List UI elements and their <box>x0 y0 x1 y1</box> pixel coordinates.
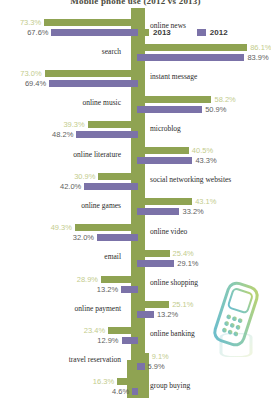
bar-2012[interactable]: 50.9% <box>137 105 226 113</box>
bar-value-label: 67.6% <box>27 29 48 36</box>
bar-value-label: 32.0% <box>73 234 94 241</box>
bar-2012[interactable]: 12.9% <box>97 336 138 344</box>
bar-2012[interactable]: 42.0% <box>60 182 138 190</box>
bar-2012[interactable]: 67.6% <box>27 28 138 36</box>
bar-value-label: 30.9% <box>74 173 95 180</box>
bar-group: 40.5%43.3% <box>137 145 217 167</box>
bar-2012[interactable]: 48.2% <box>52 131 138 139</box>
bar-rect <box>97 234 138 241</box>
bar-2012[interactable]: 13.2% <box>137 311 178 319</box>
bar-value-label: 40.5% <box>192 147 213 154</box>
bar-group: 23.4%12.9% <box>84 324 138 346</box>
bar-2013[interactable]: 16.3% <box>93 378 138 386</box>
bar-2013[interactable]: 30.9% <box>74 172 138 180</box>
bar-rect <box>132 388 138 395</box>
bar-2012[interactable]: 29.1% <box>137 259 199 267</box>
bar-value-label: 25.4% <box>173 250 194 257</box>
bar-2013[interactable]: 23.4% <box>84 326 138 334</box>
bar-value-label: 33.2% <box>182 208 203 215</box>
bar-2012[interactable]: 5.9% <box>137 362 165 370</box>
bar-value-label: 48.2% <box>52 131 73 138</box>
category-label: online banking <box>150 329 195 338</box>
bar-2012[interactable]: 32.0% <box>73 234 138 242</box>
bar-rect <box>122 337 139 344</box>
bar-2013[interactable]: 40.5% <box>137 147 213 155</box>
legend-item-2012[interactable]: 2012 <box>197 28 228 37</box>
chart-legend: 2013 2012 <box>140 28 228 37</box>
bar-value-label: 5.9% <box>148 363 165 370</box>
bar-value-label: 23.4% <box>84 327 105 334</box>
bar-2013[interactable]: 86.1% <box>137 44 271 52</box>
bar-group: 49.3%32.0% <box>51 222 138 244</box>
bar-group: 73.3%67.6% <box>20 16 138 38</box>
bar-group: 58.2%50.9% <box>137 93 236 115</box>
bar-value-label: 43.1% <box>195 198 216 205</box>
bar-value-label: 25.1% <box>172 301 193 308</box>
bar-group: 73.0%69.4% <box>20 67 138 89</box>
bar-group: 30.9%42.0% <box>60 170 138 192</box>
bar-2013[interactable]: 28.9% <box>77 275 138 283</box>
bar-2013[interactable]: 25.4% <box>137 249 194 257</box>
bar-2012[interactable]: 13.2% <box>97 285 138 293</box>
bar-rect <box>76 131 138 138</box>
bar-rect <box>137 260 174 267</box>
bar-2012[interactable]: 33.2% <box>137 208 204 216</box>
bar-2013[interactable]: 58.2% <box>137 95 236 103</box>
bar-value-label: 16.3% <box>93 378 114 385</box>
bar-rect <box>137 311 154 318</box>
bar-rect <box>98 173 138 180</box>
category-label: online shopping <box>150 278 198 287</box>
bar-rect <box>137 353 149 360</box>
bar-value-label: 83.9% <box>247 54 268 61</box>
bar-group: 25.4%29.1% <box>137 247 199 269</box>
bar-value-label: 69.4% <box>25 80 46 87</box>
bar-2012[interactable]: 4.6% <box>112 388 138 396</box>
category-label: online payment <box>75 304 121 313</box>
bar-2013[interactable]: 43.1% <box>137 198 216 206</box>
legend-swatch-2013 <box>140 29 149 36</box>
category-label: email <box>104 252 121 261</box>
bar-value-label: 86.1% <box>250 44 271 51</box>
bar-2013[interactable]: 25.1% <box>137 301 193 309</box>
bar-2013[interactable]: 9.1% <box>137 352 169 360</box>
bar-group: 86.1%83.9% <box>137 42 271 64</box>
bar-value-label: 43.3% <box>195 157 216 164</box>
bar-2012[interactable]: 43.3% <box>137 157 217 165</box>
category-label: online music <box>82 98 121 107</box>
legend-item-2013[interactable]: 2013 <box>140 28 171 37</box>
bar-rect <box>44 19 138 26</box>
bar-2012[interactable]: 69.4% <box>25 79 138 87</box>
bar-rect <box>101 276 138 283</box>
chart-row: 16.3%4.6%group buying <box>0 372 271 398</box>
bar-2013[interactable]: 49.3% <box>51 224 138 232</box>
bar-value-label: 29.1% <box>177 260 198 267</box>
bar-rect <box>137 157 192 164</box>
bar-value-label: 9.1% <box>152 353 169 360</box>
bar-value-label: 73.3% <box>20 19 41 26</box>
bar-2012[interactable]: 83.9% <box>137 54 269 62</box>
bar-group: 16.3%4.6% <box>93 376 138 398</box>
bar-rect <box>121 286 138 293</box>
bar-value-label: 50.9% <box>205 106 226 113</box>
bar-rect <box>75 224 138 231</box>
bar-rect <box>108 327 138 334</box>
bar-rect <box>88 121 138 128</box>
bar-group: 25.1%13.2% <box>137 299 193 321</box>
bar-rect <box>137 44 247 51</box>
category-label: online games <box>81 201 121 210</box>
bar-group: 39.3%48.2% <box>52 119 138 141</box>
bar-value-label: 58.2% <box>214 96 235 103</box>
bar-group: 43.1%33.2% <box>137 196 216 218</box>
bar-rect <box>49 80 138 87</box>
bar-rect <box>137 198 192 205</box>
bar-value-label: 4.6% <box>112 388 129 395</box>
bar-rect <box>84 183 138 190</box>
bar-rect <box>51 29 138 36</box>
bar-2013[interactable]: 39.3% <box>63 121 138 129</box>
bar-2013[interactable]: 73.3% <box>20 18 138 26</box>
legend-swatch-2012 <box>197 29 206 36</box>
bar-2013[interactable]: 73.0% <box>20 69 138 77</box>
bar-group: 9.1%5.9% <box>137 350 169 372</box>
bar-rect <box>137 363 145 370</box>
bar-value-label: 12.9% <box>97 337 118 344</box>
